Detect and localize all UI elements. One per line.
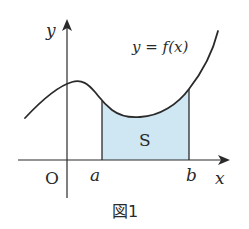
y-axis-label: y [45,20,56,40]
curve-label: y = f(x) [131,38,188,56]
region-label: S [139,130,151,150]
x-mark-a-label: a [90,165,100,185]
x-axis-label: x [215,168,225,188]
figure: y y = f(x) S O a b x 図1 [0,0,249,229]
figure-caption: 図1 [112,202,138,221]
origin-label: O [45,168,59,188]
x-mark-b-label: b [186,165,197,185]
